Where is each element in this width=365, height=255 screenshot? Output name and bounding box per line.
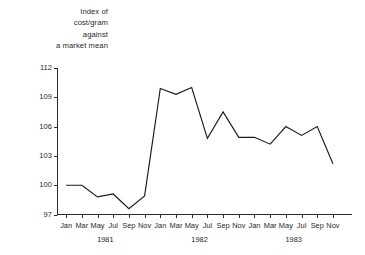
x-axis-year-label: 1983 [285,236,301,244]
x-axis-tick-marks [67,215,334,219]
x-tick-label: May [185,222,199,230]
x-tick-label: Sep [122,222,135,230]
x-tick-label: Mar [170,222,183,230]
plot-area [0,0,365,255]
y-axis-tick-marks [54,69,58,216]
x-tick-label: Jul [108,222,117,230]
x-tick-label: Nov [138,222,151,230]
x-axis-year-label: 1981 [97,236,113,244]
x-tick-label: Jul [203,222,212,230]
x-tick-label: Mar [264,222,277,230]
y-tick-label: 106 [26,123,52,131]
x-tick-label: Mar [75,222,88,230]
x-axis-year-label: 1982 [191,236,207,244]
x-tick-label: Jan [60,222,72,230]
x-tick-label: Sep [216,222,229,230]
x-tick-label: Nov [232,222,245,230]
x-tick-label: Jan [248,222,260,230]
x-tick-label: Jan [154,222,166,230]
axis-lines [58,68,353,215]
x-tick-label: Nov [326,222,339,230]
x-tick-label: Jul [297,222,306,230]
y-tick-label: 109 [26,93,52,101]
y-tick-label: 100 [26,181,52,189]
x-tick-label: May [279,222,293,230]
x-tick-label: Sep [311,222,324,230]
data-series-line [66,88,333,209]
y-tick-label: 97 [26,211,52,219]
y-tick-label: 103 [26,152,52,160]
chart-figure: Index of cost/gram against a market mean… [0,0,365,255]
x-tick-label: May [91,222,105,230]
y-tick-label: 112 [26,64,52,72]
